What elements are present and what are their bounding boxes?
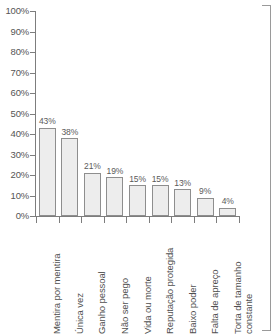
x-axis-category-label: Não ser pego — [120, 278, 131, 334]
bar — [197, 198, 214, 216]
y-axis-tick-label: 70% — [11, 68, 29, 78]
category-label-line: constante — [243, 262, 254, 334]
category-label-line: Baixo poder — [188, 284, 199, 334]
category-label-line: Mentira por mentira — [52, 254, 63, 334]
bar-group: 4% — [219, 11, 236, 216]
bar-value-label: 4% — [222, 197, 234, 206]
x-axis-category-label: Reputação protegida — [165, 248, 176, 334]
y-axis-tick-label: 50% — [11, 109, 29, 119]
bar — [84, 173, 101, 216]
x-axis-category-label: Ganho pessoal — [97, 271, 108, 334]
y-axis-tick-label: 60% — [11, 88, 29, 98]
category-label-line: Reputação protegida — [165, 248, 176, 334]
x-axis-category-label: Torta de tamanhoconstante — [233, 262, 254, 334]
y-axis-tick-label: 90% — [11, 27, 29, 37]
y-axis: 0%10%20%30%40%50%60%70%80%90%100% — [0, 0, 35, 336]
bar — [129, 185, 146, 216]
bar-value-label: 19% — [107, 167, 124, 176]
bar — [152, 185, 169, 216]
y-axis-tick-label: 100% — [6, 6, 30, 16]
bar — [174, 189, 191, 216]
x-axis-tick-mark — [81, 217, 82, 223]
category-label-line: Não ser pego — [120, 278, 131, 334]
right-bracket-decoration — [262, 5, 271, 331]
bar-group: 19% — [106, 11, 123, 216]
bar-value-label: 43% — [39, 117, 56, 126]
bar-value-label: 13% — [174, 179, 191, 188]
x-axis-tick-mark — [216, 217, 217, 223]
bar-group: 38% — [61, 11, 78, 216]
y-axis-tick-label: 10% — [11, 191, 29, 201]
x-axis-tick-mark — [194, 217, 195, 223]
x-axis-tick-mark — [59, 217, 60, 223]
x-axis-tick-mark — [239, 217, 240, 223]
category-label-line: Torta de tamanho — [233, 262, 244, 334]
bar — [61, 138, 78, 216]
y-axis-tick-label: 20% — [11, 170, 29, 180]
category-label-line: Única vez — [75, 293, 86, 334]
bar-chart: 0%10%20%30%40%50%60%70%80%90%100% 43%38%… — [0, 0, 274, 336]
plot-area: 43%38%21%19%15%15%13%9%4% — [36, 11, 239, 216]
bar — [106, 177, 123, 216]
x-axis-line — [35, 216, 240, 217]
y-axis-tick-label: 80% — [11, 47, 29, 57]
x-axis-tick-mark — [171, 217, 172, 223]
x-axis-tick-mark — [104, 217, 105, 223]
x-axis-category-label: Falta de apreço — [210, 269, 221, 334]
x-axis-tick-mark — [149, 217, 150, 223]
bar-group: 43% — [39, 11, 56, 216]
bar-value-label: 9% — [199, 187, 211, 196]
category-label-line: Ganho pessoal — [97, 271, 108, 334]
bar-value-label: 38% — [61, 128, 78, 137]
y-axis-tick-label: 40% — [11, 129, 29, 139]
bar-value-label: 15% — [129, 175, 146, 184]
x-axis-tick-mark — [126, 217, 127, 223]
x-axis-category-label: Mentira por mentira — [52, 254, 63, 334]
bar-group: 9% — [197, 11, 214, 216]
category-label-line: Falta de apreço — [210, 269, 221, 334]
bar-value-label: 21% — [84, 162, 101, 171]
x-axis-category-label: Vida ou morte — [143, 276, 154, 334]
y-axis-tick-label: 30% — [11, 150, 29, 160]
x-axis-category-labels: Mentira por mentiraÚnica vezGanho pessoa… — [36, 224, 239, 336]
bar — [219, 208, 236, 216]
bar — [39, 128, 56, 216]
bar-group: 15% — [152, 11, 169, 216]
bar-value-label: 15% — [152, 175, 169, 184]
x-axis-tick-mark — [36, 217, 37, 223]
category-label-line: Vida ou morte — [143, 276, 154, 334]
x-axis-category-label: Baixo poder — [188, 284, 199, 334]
y-axis-tick-label: 0% — [16, 211, 29, 221]
bar-group: 21% — [84, 11, 101, 216]
bar-group: 13% — [174, 11, 191, 216]
bar-group: 15% — [129, 11, 146, 216]
x-axis-category-label: Única vez — [75, 293, 86, 334]
